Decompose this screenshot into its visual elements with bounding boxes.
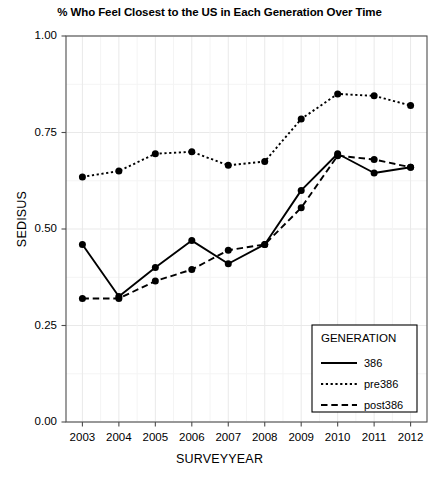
data-point — [225, 162, 232, 169]
data-point — [225, 247, 232, 254]
plot-area: GENERATION386pre386post386 — [0, 0, 439, 483]
data-point — [152, 264, 159, 271]
data-point — [298, 187, 305, 194]
data-point — [298, 115, 305, 122]
data-point — [371, 156, 378, 163]
data-point — [115, 295, 122, 302]
data-point — [261, 158, 268, 165]
data-point — [152, 278, 159, 285]
legend: GENERATION386pre386post386 — [312, 325, 417, 412]
data-point — [298, 204, 305, 211]
data-point — [188, 237, 195, 244]
data-point — [261, 241, 268, 248]
chart-container: % Who Feel Closest to the US in Each Gen… — [0, 0, 439, 483]
data-point — [407, 102, 414, 109]
data-point — [188, 148, 195, 155]
data-point — [79, 295, 86, 302]
data-point — [79, 241, 86, 248]
legend-label-post386: post386 — [364, 399, 403, 411]
data-point — [371, 92, 378, 99]
legend-label-386: 386 — [364, 357, 382, 369]
data-point — [79, 173, 86, 180]
legend-label-pre386: pre386 — [364, 378, 398, 390]
data-point — [371, 170, 378, 177]
data-point — [188, 266, 195, 273]
data-point — [334, 90, 341, 97]
legend-title: GENERATION — [321, 332, 396, 344]
data-point — [152, 150, 159, 157]
data-point — [334, 152, 341, 159]
data-point — [225, 260, 232, 267]
data-point — [115, 168, 122, 175]
data-point — [407, 164, 414, 171]
